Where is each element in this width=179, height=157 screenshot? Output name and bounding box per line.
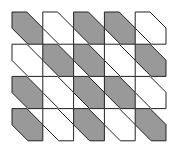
shaded-hexagon-cell (74, 44, 105, 76)
unshaded-hexagon-cell (104, 44, 135, 76)
hexagon-cells (12, 12, 166, 141)
shaded-hexagon-cell (104, 76, 135, 108)
tiling-diagram (0, 0, 179, 157)
shaded-hexagon-cell (104, 12, 135, 44)
shaded-hexagon-cell (74, 76, 105, 108)
shaded-hexagon-cell (74, 12, 105, 44)
unshaded-hexagon-cell (135, 12, 166, 44)
shaded-hexagon-cell (12, 12, 43, 44)
unshaded-hexagon-cell (135, 76, 166, 108)
shaded-hexagon-cell (135, 44, 166, 76)
unshaded-hexagon-cell (104, 109, 135, 141)
shaded-hexagon-cell (12, 76, 43, 108)
shaded-hexagon-cell (135, 109, 166, 141)
unshaded-hexagon-cell (12, 44, 43, 76)
shaded-hexagon-cell (12, 109, 43, 141)
shaded-hexagon-cell (43, 44, 74, 76)
unshaded-hexagon-cell (43, 12, 74, 44)
unshaded-hexagon-cell (43, 76, 74, 108)
shaded-hexagon-cell (74, 109, 105, 141)
unshaded-hexagon-cell (43, 109, 74, 141)
